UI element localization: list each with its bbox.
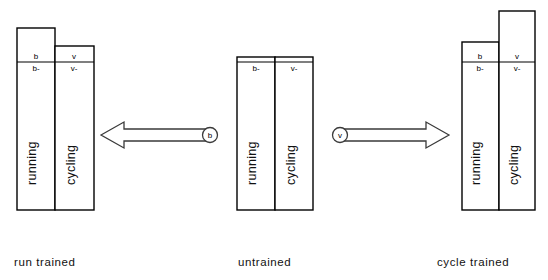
untrained-cycling-label: cycling (284, 145, 298, 185)
left-arrow-label: b (208, 131, 213, 140)
untrained-cycling-bar (275, 57, 313, 210)
right-arrow-shape (340, 122, 449, 148)
caption-run-trained: run trained (14, 256, 76, 268)
run-trained-cycling-base-label: v- (71, 64, 78, 73)
run-trained-cycling-label: cycling (64, 145, 78, 185)
untrained-cycling-base-label: v- (291, 64, 298, 73)
run-trained-running-base-label: b- (32, 64, 39, 73)
panel-run-trained: b v b- v- running cycling (17, 28, 94, 210)
panel-untrained: b- v- running cycling (237, 57, 313, 210)
run-trained-cycling-top-label: v (72, 52, 76, 61)
cycle-trained-cycling-label: cycling (507, 145, 521, 185)
left-arrow-shape (101, 122, 210, 148)
training-specificity-diagram: b v b- v- running cycling b b- v- runnin… (0, 0, 548, 280)
caption-untrained: untrained (238, 256, 291, 268)
untrained-running-bar (237, 57, 275, 210)
run-trained-running-label: running (25, 141, 39, 185)
cycle-trained-running-base-label: b- (476, 64, 483, 73)
right-arrow: v (333, 122, 450, 148)
run-trained-running-top-label: b (34, 52, 39, 61)
cycle-trained-cycling-base-label: v- (514, 64, 521, 73)
cycle-trained-cycling-top-label: v (515, 52, 519, 61)
caption-cycle-trained: cycle trained (437, 256, 509, 268)
right-arrow-label: v (338, 131, 342, 140)
left-arrow: b (101, 122, 218, 148)
cycle-trained-running-label: running (469, 141, 483, 185)
untrained-running-label: running (245, 141, 259, 185)
cycle-trained-running-top-label: b (478, 52, 483, 61)
diagram-canvas: b v b- v- running cycling b b- v- runnin… (0, 0, 548, 280)
panel-cycle-trained: b v b- v- running cycling (462, 11, 535, 210)
untrained-running-base-label: b- (252, 64, 259, 73)
